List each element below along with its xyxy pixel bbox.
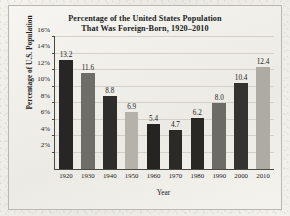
- y-tick-label: 12%: [37, 59, 50, 67]
- gridline: [55, 53, 274, 54]
- x-tick-label: 2010: [256, 172, 270, 179]
- x-tick-label: 1980: [191, 172, 205, 179]
- x-tick-label: 1940: [103, 172, 117, 179]
- y-tick-mark: [52, 152, 55, 153]
- y-tick-mark: [52, 69, 55, 70]
- y-tick-mark: [52, 53, 55, 54]
- figure-frame: Percentage of the United States Populati…: [8, 5, 282, 210]
- y-tick-label: 2%: [41, 141, 50, 149]
- plot-area: 2%4%6%8%10%12%14%16% 13.2192011.619308.8…: [54, 37, 274, 170]
- bar: 6.21980: [191, 118, 205, 169]
- x-tick-label: 1990: [212, 172, 226, 179]
- y-tick-mark: [52, 135, 55, 136]
- bar-value-label: 6.9: [127, 103, 136, 111]
- bar: 12.42010: [256, 67, 270, 169]
- bar: 11.61930: [81, 73, 95, 169]
- y-tick-mark: [52, 119, 55, 120]
- y-tick-mark: [52, 86, 55, 87]
- bar-value-label: 5.4: [149, 115, 158, 123]
- y-tick-label: 6%: [41, 108, 50, 116]
- y-tick-label: 16%: [37, 26, 50, 34]
- x-tick-label: 2000: [234, 172, 248, 179]
- bar-value-label: 10.4: [235, 74, 248, 82]
- bar: 10.42000: [234, 83, 248, 169]
- bar-value-label: 8.0: [215, 94, 224, 102]
- bar-value-label: 13.2: [60, 51, 73, 59]
- x-tick-label: 1970: [169, 172, 183, 179]
- x-tick-label: 1930: [81, 172, 95, 179]
- x-tick-label: 1920: [59, 172, 73, 179]
- bar: 13.21920: [59, 60, 73, 169]
- bar: 8.01990: [212, 103, 226, 169]
- bar: 8.81940: [103, 96, 117, 169]
- chart-title-line-1: Percentage of the United States Populati…: [68, 14, 221, 23]
- y-tick-label: 14%: [37, 42, 50, 50]
- bar-value-label: 12.4: [257, 58, 270, 66]
- bar: 5.41960: [147, 124, 161, 169]
- x-axis-title: Year: [54, 188, 273, 197]
- x-tick-label: 1960: [147, 172, 161, 179]
- bar-value-label: 6.2: [193, 109, 202, 117]
- y-tick-label: 4%: [41, 125, 50, 133]
- x-tick-label: 1950: [125, 172, 139, 179]
- y-tick-mark: [52, 36, 55, 37]
- bar-value-label: 8.8: [105, 87, 114, 95]
- y-tick-label: 10%: [37, 75, 50, 83]
- y-tick-mark: [52, 102, 55, 103]
- y-tick-label: 8%: [41, 92, 50, 100]
- bar: 6.91950: [125, 112, 139, 169]
- y-axis-title: Percentage of U.S. Population: [25, 0, 34, 128]
- scanned-page-background: Percentage of the United States Populati…: [0, 0, 290, 216]
- bar-value-label: 4.7: [171, 121, 180, 129]
- gridline: [55, 36, 274, 37]
- bar: 4.71970: [169, 130, 183, 169]
- bar-value-label: 11.6: [82, 64, 94, 72]
